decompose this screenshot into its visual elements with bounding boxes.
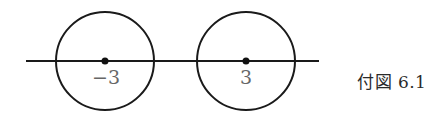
label-right: 3 <box>240 66 252 88</box>
center-point-left <box>102 58 109 65</box>
figure-caption: 付図 6.1 <box>357 68 426 93</box>
diagram-figure: −3 3 <box>0 0 447 117</box>
center-point-right <box>243 58 250 65</box>
label-left: −3 <box>92 66 120 88</box>
